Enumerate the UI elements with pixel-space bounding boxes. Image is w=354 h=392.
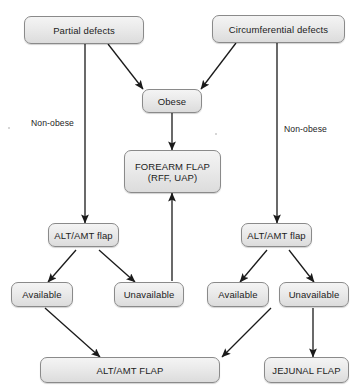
node-unavailable-left-label: Unavailable	[124, 289, 175, 300]
edge-circumferential-to-obese	[201, 43, 236, 89]
edge-alt-left-to-unavailable	[99, 250, 135, 282]
flowchart-edges	[0, 0, 354, 392]
node-alt-amt-flap-result-label: ALT/AMT FLAP	[97, 365, 164, 376]
node-available-right-label: Available	[218, 289, 257, 300]
node-jejunal-flap-result-label: JEJUNAL FLAP	[272, 365, 340, 376]
node-alt-amt-flap-right[interactable]: ALT/AMT flap	[241, 223, 312, 247]
node-jejunal-flap-result[interactable]: JEJUNAL FLAP	[264, 357, 349, 383]
node-forearm-flap[interactable]: FOREARM FLAP (RFF, UAP)	[124, 150, 221, 193]
edge-alt-right-to-available	[240, 250, 267, 282]
edge-alt-right-to-unavailable	[289, 250, 314, 282]
edge-partial-to-obese	[108, 44, 143, 89]
node-circumferential-defects-label: Circumferential defects	[229, 24, 328, 35]
node-obese-label: Obese	[158, 96, 187, 107]
edge-alt-left-to-available	[48, 250, 76, 282]
flowchart-canvas: Partial defects Circumferential defects …	[0, 0, 354, 392]
node-available-right[interactable]: Available	[207, 282, 269, 307]
node-unavailable-right[interactable]: Unavailable	[279, 282, 349, 307]
edge-available-left-to-result	[45, 308, 100, 357]
scan-speck-center	[215, 133, 217, 135]
scan-speck-left	[8, 127, 10, 129]
node-obese[interactable]: Obese	[142, 89, 202, 113]
node-alt-amt-flap-left-label: ALT/AMT flap	[54, 230, 112, 241]
node-unavailable-right-label: Unavailable	[289, 289, 340, 300]
node-forearm-flap-line2: (RFF, UAP)	[148, 172, 198, 183]
edge-label-non-obese-right: Non-obese	[284, 124, 327, 134]
node-partial-defects-label: Partial defects	[53, 25, 115, 36]
node-alt-amt-flap-left[interactable]: ALT/AMT flap	[48, 223, 119, 247]
node-alt-amt-flap-right-label: ALT/AMT flap	[247, 230, 305, 241]
node-circumferential-defects[interactable]: Circumferential defects	[212, 15, 345, 43]
node-available-left-label: Available	[22, 289, 61, 300]
node-alt-amt-flap-result[interactable]: ALT/AMT FLAP	[40, 357, 220, 383]
node-available-left[interactable]: Available	[11, 282, 73, 307]
node-forearm-flap-line1: FOREARM FLAP	[135, 161, 210, 172]
edge-available-right-to-result	[222, 308, 271, 357]
node-partial-defects[interactable]: Partial defects	[24, 16, 144, 44]
edge-label-non-obese-left: Non-obese	[31, 118, 74, 128]
node-unavailable-left[interactable]: Unavailable	[114, 282, 184, 307]
